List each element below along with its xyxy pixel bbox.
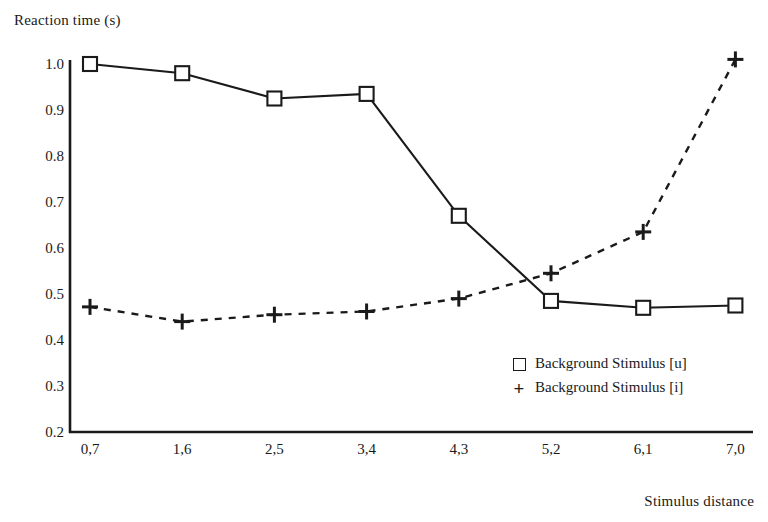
data-point-marker <box>728 299 742 313</box>
data-point-marker <box>175 66 189 80</box>
x-tick-label: 3,4 <box>332 441 402 458</box>
series-line <box>90 59 735 321</box>
legend-label-i: Background Stimulus [i] <box>535 375 683 399</box>
plus-icon: + <box>508 375 530 399</box>
chart-figure: Reaction time (s) 1.00.90.80.70.60.50.40… <box>0 0 768 522</box>
x-tick-label: 6,1 <box>608 441 678 458</box>
series-i <box>82 51 743 329</box>
data-point-marker <box>544 294 558 308</box>
legend-item-i: + Background Stimulus [i] <box>508 375 687 399</box>
series-line <box>90 64 735 308</box>
x-tick-label: 5,2 <box>516 441 586 458</box>
x-tick-label: 0,7 <box>55 441 125 458</box>
x-tick-label: 7,0 <box>700 441 768 458</box>
data-point-marker <box>267 92 281 106</box>
x-tick-label: 4,3 <box>424 441 494 458</box>
x-axis-label: Stimulus distance <box>644 493 754 510</box>
open-square-icon <box>508 351 530 375</box>
x-axis-tick-labels: 0,71,62,53,44,35,26,17,0 <box>0 441 768 463</box>
data-series-layer <box>82 51 743 329</box>
data-point-marker <box>360 87 374 101</box>
data-point-marker <box>636 301 650 315</box>
legend-item-u: Background Stimulus [u] <box>508 351 687 375</box>
legend-label-u: Background Stimulus [u] <box>535 351 687 375</box>
x-tick-label: 2,5 <box>239 441 309 458</box>
chart-legend: Background Stimulus [u] + Background Sti… <box>508 351 687 399</box>
x-tick-label: 1,6 <box>147 441 217 458</box>
series-u <box>83 57 742 315</box>
data-point-marker <box>452 209 466 223</box>
data-point-marker <box>83 57 97 71</box>
